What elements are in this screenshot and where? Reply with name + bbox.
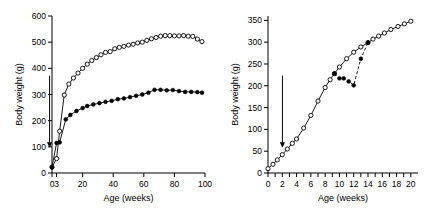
x-axis-tick-label: 20 — [406, 179, 416, 189]
data-point-marker — [68, 113, 72, 117]
data-point-marker — [76, 71, 80, 75]
y-axis-title: Body weight (g) — [14, 63, 24, 126]
data-point-marker — [110, 99, 114, 103]
data-point-marker — [189, 90, 193, 94]
data-point-marker — [347, 80, 351, 84]
data-point-marker — [145, 38, 149, 42]
data-point-marker — [108, 49, 112, 53]
data-point-marker — [91, 103, 95, 107]
x-axis-tick-label: 6 — [308, 179, 313, 189]
data-point-marker — [122, 44, 126, 48]
data-point-marker — [172, 34, 176, 38]
data-point-marker — [154, 35, 158, 39]
data-point-marker — [200, 91, 204, 95]
y-axis-tick-label: 150 — [248, 103, 262, 113]
axis-lines — [52, 16, 205, 173]
figure-container: 01002003004005006000320406080100Age (wee… — [0, 0, 435, 212]
data-point-marker — [113, 47, 117, 51]
data-point-marker — [134, 94, 138, 98]
data-point-marker — [294, 137, 298, 141]
data-point-marker — [389, 27, 393, 31]
y-axis-tick-label: 500 — [32, 37, 46, 47]
y-axis-tick-label: 250 — [248, 59, 262, 69]
data-point-marker — [191, 34, 195, 38]
data-point-marker — [81, 66, 85, 70]
data-curve — [268, 21, 411, 168]
data-point-marker — [146, 91, 150, 95]
x-axis-tick-label: 100 — [198, 179, 212, 189]
data-point-marker — [266, 167, 270, 171]
data-point-marker — [85, 104, 89, 108]
data-point-marker — [302, 126, 306, 130]
y-axis-tick-label: 600 — [32, 11, 46, 21]
y-axis-tick-label: 100 — [248, 124, 262, 134]
data-point-marker — [128, 95, 132, 99]
x-axis-tick-label: 8 — [323, 179, 328, 189]
data-point-marker — [159, 34, 163, 38]
data-point-marker — [67, 82, 71, 86]
data-point-marker — [195, 90, 199, 94]
x-axis-tick-label: 16 — [378, 179, 388, 189]
y-axis-tick-label: 50 — [253, 146, 263, 156]
data-point-marker — [153, 88, 157, 92]
data-point-marker — [163, 34, 167, 38]
chart-panel-right: 05010015020025030035002468101214161820Ag… — [218, 0, 435, 212]
data-point-marker — [181, 34, 185, 38]
x-axis-tick-label: 80 — [170, 179, 180, 189]
data-point-marker — [371, 37, 375, 41]
x-axis-title: Age (weeks) — [103, 193, 153, 203]
data-point-marker — [337, 65, 341, 69]
x-axis-tick-label: 14 — [363, 179, 373, 189]
data-point-marker — [62, 93, 66, 97]
data-point-marker — [271, 162, 275, 166]
data-point-marker — [177, 34, 181, 38]
data-point-marker — [90, 58, 94, 62]
data-point-marker — [275, 158, 279, 162]
data-point-marker — [103, 50, 107, 54]
x-axis-title: Age (weeks) — [318, 193, 368, 203]
data-point-marker — [58, 140, 62, 144]
data-point-marker — [316, 99, 320, 103]
data-point-marker — [352, 50, 356, 54]
data-point-marker — [117, 45, 121, 49]
data-point-marker — [131, 42, 135, 46]
data-point-marker — [94, 56, 98, 60]
data-point-marker — [183, 90, 187, 94]
data-point-marker — [136, 41, 140, 45]
data-point-marker — [116, 97, 120, 101]
x-axis-tick-label: 10 — [335, 179, 345, 189]
data-point-marker — [333, 72, 337, 76]
data-point-marker — [85, 62, 89, 66]
data-point-marker — [104, 100, 108, 104]
data-point-marker — [409, 19, 413, 23]
data-point-marker — [396, 24, 400, 28]
data-curve — [52, 90, 202, 167]
data-point-marker — [359, 57, 363, 61]
data-point-marker — [338, 76, 342, 80]
data-point-marker — [168, 34, 172, 38]
y-axis-tick-label: 100 — [32, 142, 46, 152]
data-point-marker — [50, 165, 54, 169]
data-point-marker — [165, 88, 169, 92]
data-point-marker — [98, 101, 102, 105]
y-axis-tick-label: 300 — [32, 90, 46, 100]
x-axis-tick-label: 20 — [78, 179, 88, 189]
data-point-marker — [328, 78, 332, 82]
y-axis-title: Body weight (g) — [230, 63, 240, 126]
data-point-marker — [309, 113, 313, 117]
left-panel-svg: 01002003004005006000320406080100Age (wee… — [0, 0, 217, 212]
y-axis-tick-label: 0 — [257, 168, 262, 178]
data-point-marker — [402, 22, 406, 26]
data-point-marker — [149, 37, 153, 41]
data-point-marker — [71, 76, 75, 80]
y-axis-tick-label: 200 — [248, 81, 262, 91]
x-axis-tick-label: 12 — [349, 179, 359, 189]
x-axis-tick-label: 18 — [392, 179, 402, 189]
data-point-marker — [359, 45, 363, 49]
x-axis-tick-label: 3 — [54, 179, 59, 189]
data-point-marker — [377, 34, 381, 38]
data-point-marker — [75, 109, 79, 113]
data-point-marker — [323, 85, 327, 89]
data-point-marker — [177, 89, 181, 93]
x-axis-tick-label: 40 — [108, 179, 118, 189]
